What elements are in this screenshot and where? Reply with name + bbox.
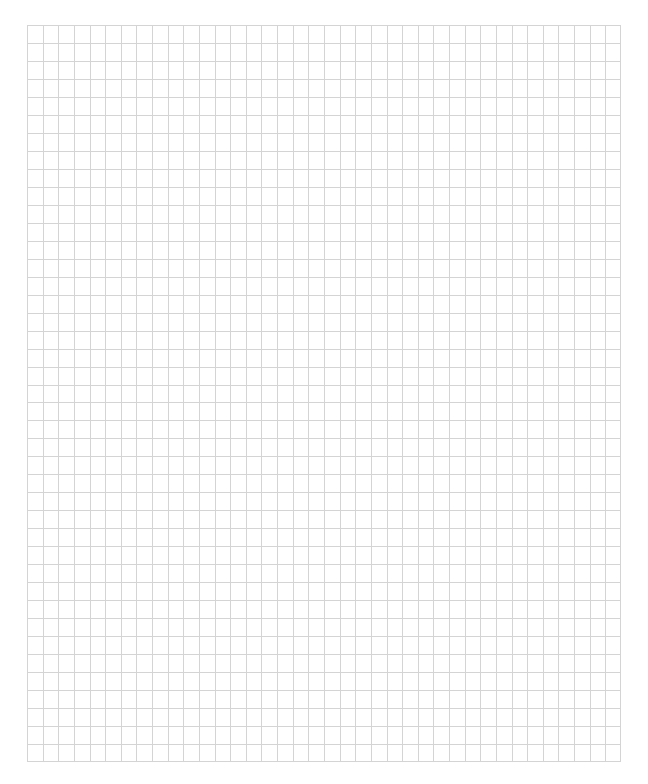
grid	[27, 25, 621, 762]
grid-paper-page	[0, 0, 648, 784]
grid-lines	[27, 25, 621, 762]
